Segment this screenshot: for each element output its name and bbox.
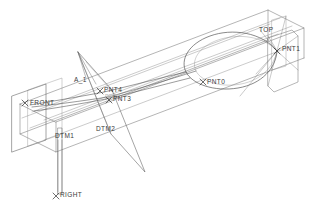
label-axis-a1: A_1 [74, 77, 87, 84]
cad-drawing-canvas: FRONT TOP RIGHT DTM1 DTM2 A_1 PNT0 PNT1 … [0, 0, 312, 210]
sweep-loop-curve [184, 32, 277, 89]
datum-plane-dtm1 [58, 140, 62, 192]
label-right: RIGHT [60, 192, 82, 199]
point-markers [22, 48, 280, 199]
x-marker-right [53, 193, 59, 199]
label-pnt0: PNT0 [207, 79, 225, 86]
label-dtm1: DTM1 [55, 133, 74, 140]
label-pnt1: PNT1 [282, 46, 300, 53]
label-pnt3: PNT3 [113, 96, 131, 103]
label-top: TOP [259, 27, 273, 34]
label-pnt4: PNT4 [104, 87, 122, 94]
label-front: FRONT [30, 100, 54, 107]
label-dtm2: DTM2 [96, 126, 115, 133]
x-marker-pnt4 [97, 88, 103, 94]
datum-plane-front [12, 78, 62, 152]
